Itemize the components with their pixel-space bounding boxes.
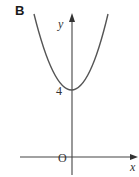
y-axis-arrow-icon — [69, 13, 75, 22]
x-axis-label: x — [130, 160, 135, 175]
y-axis-label: y — [58, 17, 63, 32]
graph-canvas — [0, 0, 139, 177]
origin-label: O — [58, 151, 67, 166]
parabola-curve — [34, 14, 108, 90]
panel-label: B — [15, 3, 24, 18]
parabola-figure: B y 4 O x — [0, 0, 139, 177]
y-intercept-label: 4 — [56, 84, 62, 99]
